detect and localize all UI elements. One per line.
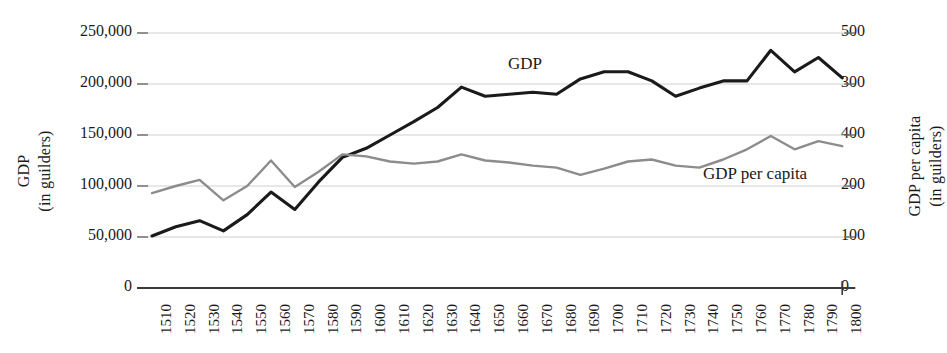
series-label-gdp-per-capita: GDP per capita: [703, 164, 807, 184]
series-line-gdp: [152, 50, 842, 236]
gdp-chart-figure: GDP (in guilders) GDP per capita (in gui…: [0, 0, 947, 353]
series-label-gdp: GDP: [508, 54, 542, 74]
